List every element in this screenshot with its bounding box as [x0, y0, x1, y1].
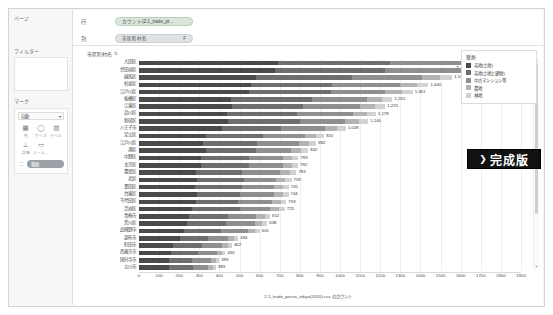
bar-segment[interactable]	[195, 185, 242, 190]
bar-segment[interactable]	[173, 243, 202, 248]
bar-segment[interactable]	[240, 207, 270, 212]
bar-segment[interactable]	[206, 148, 256, 153]
row-header-label[interactable]: 板橋区	[124, 97, 136, 102]
bar-segment[interactable]	[139, 251, 171, 256]
bar-segment[interactable]	[139, 104, 232, 109]
legend-collapse-icon[interactable]: ◂	[456, 63, 459, 69]
bar-segment[interactable]	[192, 207, 239, 212]
bar-segment[interactable]	[353, 112, 367, 117]
pill-municipality-dimension[interactable]: 市区町村名 F	[115, 34, 193, 43]
marks-tooltip-button[interactable]: ▭ ツール...	[33, 141, 48, 155]
bar-segment[interactable]	[382, 97, 392, 102]
bar-segment[interactable]	[208, 236, 228, 241]
bar-segment[interactable]	[291, 148, 302, 153]
marks-size-button[interactable]: ◯ サイズ	[33, 124, 48, 138]
bar-segment[interactable]	[249, 156, 283, 161]
bar-segment[interactable]	[139, 265, 169, 270]
bar-segment[interactable]	[375, 104, 385, 109]
bar-segment[interactable]	[228, 214, 257, 219]
bar-segment[interactable]	[171, 251, 198, 256]
bar-segment[interactable]	[309, 141, 316, 146]
table-row[interactable]	[139, 265, 216, 270]
row-header-label[interactable]: 港区	[128, 148, 136, 153]
row-header-label[interactable]: 町田市	[124, 243, 136, 248]
row-header-label[interactable]: 八王子市	[120, 126, 136, 131]
bar-segment[interactable]	[281, 126, 325, 131]
bar-segment[interactable]	[275, 68, 386, 73]
bar-segment[interactable]	[139, 214, 189, 219]
bar-segment[interactable]	[139, 97, 231, 102]
bar-segment[interactable]	[283, 192, 289, 197]
bar-segment[interactable]	[256, 75, 353, 80]
bar-segment[interactable]	[196, 170, 242, 175]
bar-segment[interactable]	[402, 90, 413, 95]
row-header-label[interactable]: 立川市	[124, 265, 136, 270]
table-row[interactable]	[139, 68, 501, 73]
mark-type-select[interactable]: 自動 ▾	[18, 112, 64, 120]
table-row[interactable]	[139, 134, 324, 139]
bar-segment[interactable]	[202, 243, 222, 248]
table-row[interactable]	[139, 156, 298, 161]
bar-segment[interactable]	[187, 221, 225, 226]
bar-segment[interactable]	[352, 75, 421, 80]
bar-segment[interactable]	[263, 134, 306, 139]
bar-segment[interactable]	[301, 148, 308, 153]
bar-segment[interactable]	[139, 83, 251, 88]
bar-segment[interactable]	[213, 265, 216, 270]
bar-segment[interactable]	[193, 265, 209, 270]
bar-segment[interactable]	[248, 229, 255, 234]
bar-segment[interactable]	[292, 156, 298, 161]
bar-segment[interactable]	[265, 214, 270, 219]
bar-segment[interactable]	[256, 148, 291, 153]
bar-segment[interactable]	[312, 97, 367, 102]
bar-segment[interactable]	[292, 163, 298, 168]
bar-segment[interactable]	[274, 192, 283, 197]
bar-segment[interactable]	[359, 119, 368, 124]
table-row[interactable]	[139, 207, 285, 212]
bar-segment[interactable]	[196, 200, 238, 205]
bar-segment[interactable]	[417, 83, 428, 88]
table-row[interactable]	[139, 258, 219, 263]
table-row[interactable]	[139, 75, 452, 80]
table-row[interactable]	[139, 97, 393, 102]
row-field-header[interactable]: 市区町村名 ⇅	[87, 50, 118, 57]
bar-segment[interactable]	[139, 229, 184, 234]
bar-segment[interactable]	[297, 112, 353, 117]
row-header-label[interactable]: 北区	[128, 177, 136, 182]
bar-segment[interactable]	[244, 178, 276, 183]
bar-segment[interactable]	[221, 229, 249, 234]
row-header-label[interactable]: 台東区	[124, 192, 136, 197]
bar-segment[interactable]	[206, 134, 263, 139]
bar-segment[interactable]	[139, 258, 169, 263]
bar-segment[interactable]	[300, 119, 346, 124]
marks-label-button[interactable]: ▥ ラベル	[49, 124, 64, 138]
bar-segment[interactable]	[283, 163, 292, 168]
table-row[interactable]	[139, 214, 270, 219]
table-row[interactable]	[139, 251, 225, 256]
bar-segment[interactable]	[139, 61, 278, 66]
row-header-label[interactable]: 中野区	[124, 155, 136, 160]
bar-segment[interactable]	[139, 243, 173, 248]
bar-segment[interactable]	[422, 75, 440, 80]
bar-segment[interactable]	[281, 200, 287, 205]
bar-segment[interactable]	[270, 207, 279, 212]
bar-segment[interactable]	[242, 185, 274, 190]
row-header-label[interactable]: 世田谷区	[120, 68, 136, 73]
bar-segment[interactable]	[400, 83, 417, 88]
row-header-label[interactable]: 青梅市	[124, 214, 136, 219]
bar-segment[interactable]	[192, 258, 211, 263]
bar-segment[interactable]	[272, 200, 280, 205]
row-header-label[interactable]: 杉並区	[124, 82, 136, 87]
table-row[interactable]	[139, 126, 346, 131]
bar-segment[interactable]	[299, 141, 309, 146]
bar-segment[interactable]	[231, 97, 312, 102]
marks-field-pill-type[interactable]: 種類	[27, 160, 64, 168]
bar-segment[interactable]	[139, 90, 249, 95]
bar-segment[interactable]	[274, 185, 283, 190]
bar-segment[interactable]	[139, 112, 227, 117]
table-row[interactable]	[139, 229, 260, 234]
table-row[interactable]	[139, 163, 298, 168]
row-header-label[interactable]: 江戸川区	[120, 141, 136, 146]
table-row[interactable]	[139, 243, 232, 248]
scroll-down-icon[interactable]: ▼	[534, 264, 539, 269]
